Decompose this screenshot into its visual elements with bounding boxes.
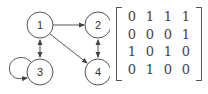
matrix-cell: 0	[159, 26, 177, 44]
matrix-cell: 0	[141, 26, 159, 44]
node-label: 4	[95, 66, 101, 78]
node-3: 3	[27, 59, 53, 85]
matrix-cell: 0	[123, 8, 141, 26]
matrix-cell: 1	[123, 43, 141, 61]
matrix-cell: 0	[159, 61, 177, 79]
matrix-cell: 1	[159, 43, 177, 61]
node-label: 3	[37, 66, 43, 78]
matrix-grid: 0 1 1 1 0 0 0 1 1 0 1 0 0 1 0 0	[123, 8, 195, 78]
node-4: 4	[85, 59, 110, 85]
directed-graph: 1 2 3 4	[0, 0, 110, 94]
left-bracket	[116, 7, 122, 81]
matrix-cell: 0	[177, 43, 195, 61]
matrix-cell: 1	[159, 8, 177, 26]
node-1: 1	[27, 12, 53, 38]
node-2: 2	[85, 12, 110, 38]
matrix-cell: 1	[177, 26, 195, 44]
matrix-cell: 0	[141, 43, 159, 61]
edge-1-to-4	[50, 34, 87, 63]
matrix-cell: 0	[123, 26, 141, 44]
matrix-cell: 0	[123, 61, 141, 79]
node-label: 1	[37, 19, 43, 31]
matrix-cell: 0	[177, 61, 195, 79]
right-bracket	[196, 7, 202, 81]
node-label: 2	[95, 19, 101, 31]
matrix-cell: 1	[177, 8, 195, 26]
matrix-cell: 1	[141, 61, 159, 79]
adjacency-matrix: 0 1 1 1 0 0 0 1 1 0 1 0 0 1 0 0	[116, 7, 202, 79]
matrix-cell: 1	[141, 8, 159, 26]
